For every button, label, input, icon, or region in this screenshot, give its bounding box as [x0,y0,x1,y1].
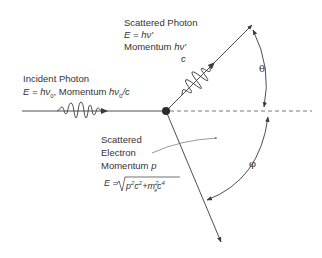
scattered-photon-energy: E = hν' [124,29,153,40]
incident-photon-label: Incident Photon [23,73,89,84]
incident-momentum-eq: hν [109,86,119,97]
incident-momentum-tail: /c [122,86,129,97]
scattered-photon-momentum: Momentum hν' [124,41,186,52]
electron-label-line2: Electron [101,147,136,158]
electron-label-line1: Scattered [101,134,142,145]
scattered-photon-momentum-denominator: c [181,53,186,64]
incident-wave-packet [57,102,102,118]
phi-arc [207,117,268,200]
theta-label: θ [259,63,265,74]
incident-energy-eq: = hν [29,86,50,97]
incident-photon-energy-momentum: E = hν0, Momentum hν0/c [23,86,130,102]
scattered-electron-path [166,111,221,242]
electron-label-pointer [152,138,217,153]
scattered-photon-momentum-label: Momentum [124,41,174,52]
electron-dot [162,107,170,115]
electron-momentum-symbol: p [151,160,156,171]
incident-arrowhead-icon [101,108,108,114]
electron-momentum: Momentum p [101,160,156,171]
scattered-photon-label: Scattered Photon [124,17,197,28]
electron-momentum-label: Momentum [101,160,151,171]
scattered-photon-path [166,25,252,111]
compton-diagram [0,0,322,258]
scattered-photon-momentum-numerator: hν' [174,41,186,52]
phi-label: φ [249,158,256,169]
incident-momentum-text: , Momentum [54,86,109,97]
